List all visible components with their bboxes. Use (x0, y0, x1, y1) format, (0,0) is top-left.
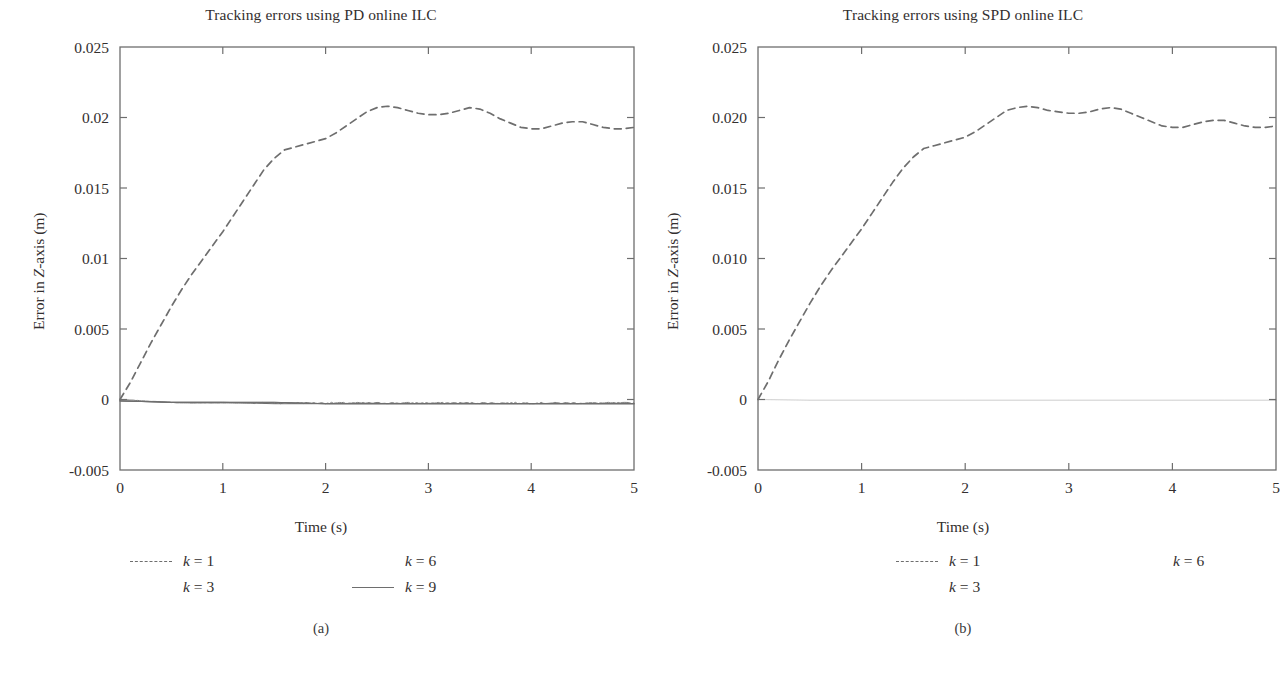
figure-container: Tracking errors using PD online ILC 0.02… (0, 0, 1284, 678)
legend-label: k = 1 (949, 552, 980, 570)
x-tick-label: 1 (858, 479, 866, 496)
subcaption-b: (b) (642, 620, 1284, 637)
y-tick-label: 0.015 (74, 180, 109, 197)
x-axis-label-b: Time (s) (642, 518, 1284, 536)
legend-item[interactable]: k = 3 (128, 574, 214, 600)
y-tick-label: 0.010 (712, 250, 747, 267)
y-axis-label-a: Error in Z-axis (m) (30, 212, 48, 330)
chart-panel-b: Tracking errors using SPD online ILC 0.0… (642, 0, 1284, 678)
y-tick-label: 0.005 (712, 321, 747, 338)
legend-line-none-icon (350, 555, 396, 567)
chart-panel-a: Tracking errors using PD online ILC 0.02… (0, 0, 642, 678)
legend-label: k = 9 (405, 578, 436, 596)
legend-a: k = 1k = 3k = 6k = 9 (0, 548, 642, 610)
legend-item[interactable]: k = 1 (128, 548, 214, 574)
legend-column: k = 6 (1118, 548, 1204, 574)
series-noise-band (120, 399, 634, 403)
x-tick-label: 1 (219, 479, 227, 496)
y-tick-label: 0.025 (712, 39, 747, 56)
y-tick-label: 0.020 (712, 109, 747, 126)
y-tick-label: 0.005 (74, 321, 109, 338)
x-tick-label: 5 (1272, 479, 1280, 496)
legend-line-none-icon (128, 581, 174, 593)
plot-area-a: 0.0250.020.0150.010.0050-0.005012345 Err… (0, 0, 642, 560)
y-tick-label: 0 (739, 391, 747, 408)
x-tick-label: 2 (961, 479, 969, 496)
y-tick-label: -0.005 (707, 462, 747, 479)
legend-line-solid-icon (350, 581, 396, 593)
legend-label: k = 1 (183, 552, 214, 570)
y-tick-label: 0.015 (712, 180, 747, 197)
y-tick-label: 0.01 (82, 250, 109, 267)
legend-column: k = 1k = 3 (894, 548, 980, 600)
series-line (120, 106, 634, 399)
x-tick-label: 3 (1065, 479, 1073, 496)
y-tick-label: -0.005 (69, 462, 109, 479)
x-tick-label: 3 (425, 479, 433, 496)
legend-label: k = 6 (405, 552, 436, 570)
legend-line-none-icon (894, 581, 940, 593)
series-line (758, 106, 1276, 399)
legend-item[interactable]: k = 6 (350, 548, 436, 574)
y-tick-label: 0.025 (74, 39, 109, 56)
plot-svg-b: 0.0250.0200.0150.0100.0050-0.005012345 (642, 0, 1284, 560)
legend-item[interactable]: k = 6 (1118, 548, 1204, 574)
y-axis-label-b: Error in Z-axis (m) (664, 212, 682, 330)
legend-label: k = 6 (1173, 552, 1204, 570)
x-tick-label: 0 (754, 479, 762, 496)
legend-column: k = 6k = 9 (350, 548, 436, 600)
legend-line-none-icon (1118, 555, 1164, 567)
legend-line-dashed-icon (894, 555, 940, 567)
plot-frame (758, 47, 1276, 470)
series-line (758, 400, 1276, 401)
plot-svg-a: 0.0250.020.0150.010.0050-0.005012345 (0, 0, 642, 560)
x-axis-label-a: Time (s) (0, 518, 642, 536)
legend-b: k = 1k = 3k = 6 (642, 548, 1284, 610)
plot-frame (120, 47, 634, 470)
x-tick-label: 0 (116, 479, 124, 496)
x-tick-label: 2 (322, 479, 330, 496)
x-tick-label: 5 (630, 479, 638, 496)
legend-item[interactable]: k = 3 (894, 574, 980, 600)
legend-label: k = 3 (183, 578, 214, 596)
legend-line-dashed-icon (128, 555, 174, 567)
x-tick-label: 4 (1169, 479, 1177, 496)
subcaption-a: (a) (0, 620, 642, 637)
legend-label: k = 3 (949, 578, 980, 596)
legend-item[interactable]: k = 9 (350, 574, 436, 600)
plot-area-b: 0.0250.0200.0150.0100.0050-0.005012345 E… (642, 0, 1284, 560)
legend-item[interactable]: k = 1 (894, 548, 980, 574)
x-tick-label: 4 (527, 479, 535, 496)
y-tick-label: 0.02 (82, 109, 109, 126)
legend-column: k = 1k = 3 (128, 548, 214, 600)
y-tick-label: 0 (101, 391, 109, 408)
